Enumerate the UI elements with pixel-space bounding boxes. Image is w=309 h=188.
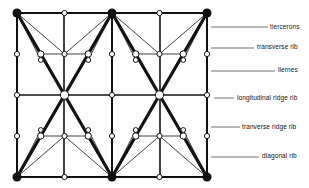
tierceron <box>17 13 65 54</box>
label-transverse-rib: transverse rib <box>257 43 298 50</box>
boss-diagonal-midpoint <box>85 133 91 139</box>
boss-wall <box>204 133 209 138</box>
label-longitudinal-ridge-rib: longitudinal ridge rib <box>237 94 297 101</box>
tierceron <box>112 13 160 54</box>
boss-diagonal-midpoint <box>85 51 91 57</box>
boss-ridge <box>157 10 162 15</box>
boss-lierne <box>181 58 186 63</box>
pier-springer <box>203 173 212 182</box>
boss-ridge <box>62 174 67 179</box>
boss-wall <box>204 51 209 56</box>
boss-lierne <box>181 128 186 133</box>
boss-ridge <box>62 133 67 138</box>
boss-wall <box>14 51 19 56</box>
boss-wall <box>109 133 114 138</box>
pier-springer <box>108 9 117 18</box>
central-boss <box>60 91 68 99</box>
boss-wall <box>109 51 114 56</box>
boss-ridge <box>157 174 162 179</box>
central-boss <box>155 91 163 99</box>
boss-lierne <box>38 58 43 63</box>
boss-wall <box>109 92 114 97</box>
boss-diagonal-midpoint <box>133 51 139 57</box>
boss-ridge <box>62 51 67 56</box>
boss-lierne <box>133 58 138 63</box>
boss-diagonal-midpoint <box>180 51 186 57</box>
tierceron <box>65 13 113 54</box>
tierceron <box>160 13 208 54</box>
boss-diagonal-midpoint <box>38 51 44 57</box>
boss-wall <box>14 92 19 97</box>
boss-lierne <box>133 128 138 133</box>
boss-wall <box>204 92 209 97</box>
pier-springer <box>203 9 212 18</box>
boss-lierne <box>38 128 43 133</box>
boss-diagonal-midpoint <box>38 133 44 139</box>
boss-ridge <box>62 10 67 15</box>
tierceron <box>112 136 160 177</box>
tierceron <box>17 136 65 177</box>
label-tranverse-ridge-rib: tranverse ridge rib <box>242 123 296 130</box>
label-liernes: liernes <box>278 66 298 73</box>
label-tiercerons: tiercerons <box>270 23 300 30</box>
boss-wall <box>14 133 19 138</box>
boss-diagonal-midpoint <box>180 133 186 139</box>
boss-diagonal-midpoint <box>133 133 139 139</box>
pier-springer <box>13 173 22 182</box>
boss-lierne <box>86 128 91 133</box>
label-diagonal-rib: diagonal rib <box>262 152 297 159</box>
pier-springer <box>13 9 22 18</box>
boss-lierne <box>86 58 91 63</box>
boss-ridge <box>157 51 162 56</box>
tierceron <box>65 136 113 177</box>
pier-springer <box>108 173 117 182</box>
tierceron <box>160 136 208 177</box>
boss-ridge <box>157 133 162 138</box>
